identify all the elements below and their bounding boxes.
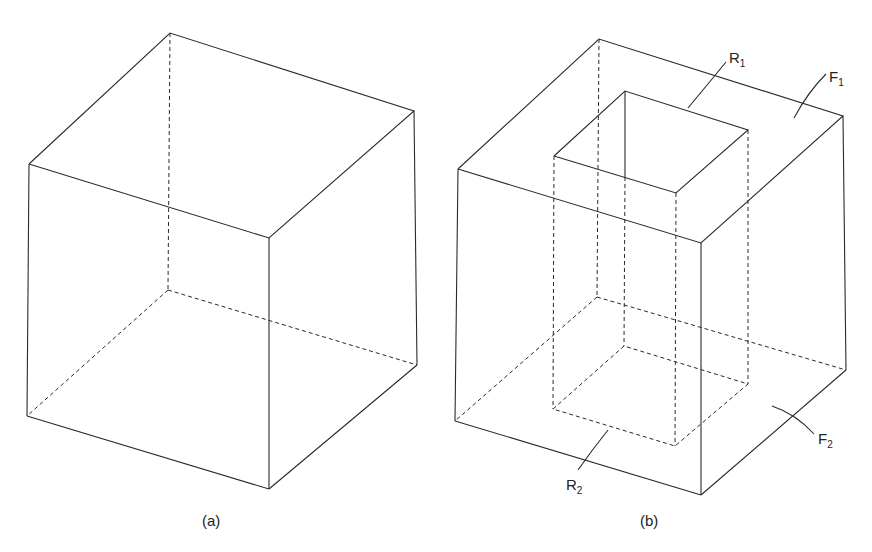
caption-a: (a) <box>202 512 220 529</box>
cube-b <box>455 39 846 495</box>
figure-canvas: (a) R1 F1 F2 R2 (b) <box>0 0 872 552</box>
label-r2: R2 <box>566 476 583 496</box>
label-f1: F1 <box>829 68 844 88</box>
caption-b: (b) <box>640 512 658 529</box>
cube-a <box>27 33 417 489</box>
leader-r2 <box>578 430 608 470</box>
label-f2: F2 <box>818 430 833 450</box>
leader-f1 <box>794 74 826 118</box>
square-hole <box>553 91 748 446</box>
label-r1: R1 <box>729 49 746 69</box>
leader-f2 <box>772 406 814 434</box>
